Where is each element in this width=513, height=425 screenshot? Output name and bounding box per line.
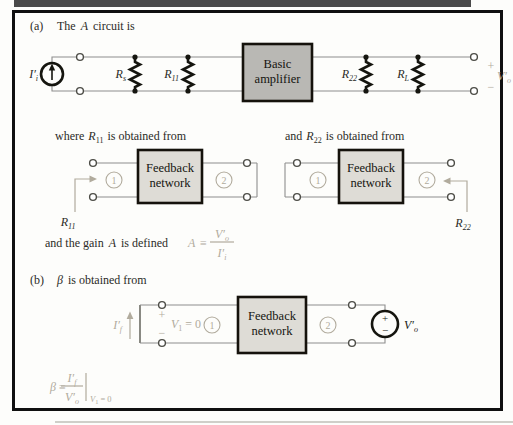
junction-dot xyxy=(185,88,190,93)
feedback-network-line1: Feedback xyxy=(146,161,195,175)
beta-formula-numerator: I′f xyxy=(67,371,79,387)
junction-dot xyxy=(415,88,420,93)
resistor-rl xyxy=(413,54,423,93)
beta-formula-denominator: V′o xyxy=(65,390,79,406)
port-1-marker: 1 xyxy=(310,172,326,188)
terminal xyxy=(294,194,301,201)
port-number: 1 xyxy=(112,175,117,186)
gain-formula-numerator: V′o xyxy=(215,227,229,243)
resistor-rs-zigzag xyxy=(130,57,140,91)
gain-formula-equiv: ≡ xyxy=(200,236,207,250)
terminal xyxy=(448,160,455,167)
gain-definition-text: and the gainAis defined xyxy=(45,236,168,250)
terminal xyxy=(349,340,356,347)
resistor-rs xyxy=(130,54,140,93)
feedback-current-label: I′f xyxy=(112,318,124,334)
figure-page: (a) TheAcircuit is I′i Rs xyxy=(0,0,513,425)
terminal xyxy=(77,88,84,95)
part-b-section: (b) βis obtained from Feedback network I… xyxy=(30,273,418,406)
port-2-marker: 2 xyxy=(216,172,232,188)
terminal xyxy=(471,54,478,61)
feedback-network-line1: Feedback xyxy=(248,309,297,323)
terminal xyxy=(77,54,84,61)
feedback-network-line2: network xyxy=(252,324,294,338)
part-a-title: TheAcircuit is xyxy=(57,19,135,33)
port-number: 1 xyxy=(210,320,215,331)
feedback-method-figure: (a) TheAcircuit is I′i Rs xyxy=(0,0,513,425)
r11-section-title: whereR11is obtained from xyxy=(55,129,187,145)
feedback-network-line2: network xyxy=(150,176,192,190)
wire xyxy=(306,305,385,312)
junction-dot xyxy=(132,88,137,93)
beta-formula-condition: V1= 0 xyxy=(90,394,112,405)
basic-amplifier-line2: amplifier xyxy=(255,72,302,86)
gain-formula-denominator: I′i xyxy=(217,246,227,262)
terminal xyxy=(349,302,356,309)
gain-definition: and the gainAis defined A ≡ V′o I′i xyxy=(45,227,234,262)
output-plus-sign: + xyxy=(488,59,495,73)
port-number: 2 xyxy=(425,175,430,186)
basic-amplifier-line1: Basic xyxy=(264,57,292,71)
port-number: 1 xyxy=(316,175,321,186)
feedback-current-arrowhead xyxy=(127,312,134,320)
beta-formula-lhs: β xyxy=(49,380,56,394)
junction-dot xyxy=(415,54,420,59)
terminal xyxy=(90,194,97,201)
port-1-marker: 1 xyxy=(204,317,220,333)
gain-formula-lhs: A xyxy=(187,236,196,250)
resistor-r22 xyxy=(361,54,371,93)
resistor-r22-zigzag xyxy=(361,57,371,91)
terminal xyxy=(294,160,301,167)
port-number: 2 xyxy=(326,320,331,331)
junction-dot xyxy=(363,88,368,93)
test-voltage-label: V′o xyxy=(404,318,418,334)
r22-pointer-arrowhead xyxy=(443,178,451,185)
junction-dot xyxy=(185,54,190,59)
output-voltage-label: V′o xyxy=(497,69,511,85)
resistor-r11-zigzag xyxy=(183,57,193,91)
v1-zero-label: V1= 0 xyxy=(171,317,201,333)
output-minus-sign: − xyxy=(488,80,495,94)
r11-pointer-arrow xyxy=(75,179,91,212)
v1-minus-sign: − xyxy=(159,326,166,340)
junction-dot xyxy=(132,54,137,59)
current-source xyxy=(41,63,63,85)
resistor-r11 xyxy=(183,54,193,93)
terminal xyxy=(244,194,251,201)
terminal xyxy=(159,340,166,347)
input-current-label: I′i xyxy=(28,67,38,83)
junction-dot xyxy=(363,54,368,59)
r11-pointer-label: R11 xyxy=(60,215,76,231)
source-plus-sign: + xyxy=(382,312,388,324)
wire xyxy=(306,336,385,343)
scan-artifact-top-bar xyxy=(14,0,471,7)
terminal xyxy=(90,160,97,167)
r22-pointer-label: R22 xyxy=(454,216,470,232)
source-minus-sign: − xyxy=(382,324,388,336)
part-b-title: βis obtained from xyxy=(56,273,147,287)
voltage-source: + − xyxy=(372,311,398,337)
part-b-tag: (b) xyxy=(30,273,44,287)
port-number: 2 xyxy=(222,175,227,186)
r11-label: R11 xyxy=(163,67,179,83)
terminal xyxy=(471,88,478,95)
resistor-rl-zigzag xyxy=(413,57,423,91)
r22-section-title: andR22is obtained from xyxy=(285,129,405,145)
r22-label: R22 xyxy=(341,67,357,83)
port-1-marker: 1 xyxy=(106,172,122,188)
feedback-network-line1: Feedback xyxy=(347,161,396,175)
r11-measurement-section: whereR11is obtained from Feedback networ… xyxy=(55,129,257,231)
r11-pointer-arrowhead xyxy=(90,176,98,183)
r22-measurement-section: andR22is obtained from Feedback network … xyxy=(285,129,471,232)
part-a-tag: (a) xyxy=(30,19,43,33)
port-2-marker: 2 xyxy=(419,172,435,188)
feedback-network-line2: network xyxy=(351,176,393,190)
rs-label: Rs xyxy=(115,67,126,83)
rl-label: RL xyxy=(396,67,409,83)
port-2-marker: 2 xyxy=(320,317,336,333)
terminal xyxy=(244,160,251,167)
part-a-section: (a) TheAcircuit is I′i Rs xyxy=(28,19,511,101)
beta-formula: β ≡ I′f V′o V1= 0 xyxy=(49,371,112,406)
terminal xyxy=(448,194,455,201)
main-circuit: I′i Rs R11 Basic amplifier xyxy=(28,44,511,101)
